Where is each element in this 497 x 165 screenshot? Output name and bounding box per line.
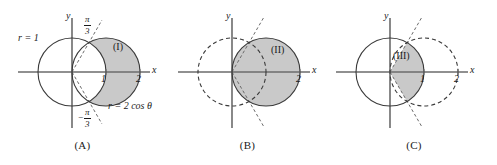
panel-b-graphic <box>165 0 330 140</box>
angle-label-minus-pi-over-3: − π 3 <box>84 108 91 129</box>
y-axis-label: y <box>66 11 70 21</box>
panel-b-caption: (B) <box>165 139 330 151</box>
panel-a: 1 2 x y r = 1 r = 2 cos θ (I) π 3 − π 3 … <box>0 0 165 165</box>
y-axis-label: y <box>226 11 230 21</box>
angle-denominator: 3 <box>84 27 91 36</box>
x-axis-label: x <box>312 65 316 75</box>
panel-a-caption: (A) <box>0 139 165 151</box>
region-label-II: (II) <box>271 45 284 55</box>
panel-c-caption: (C) <box>331 139 497 151</box>
panel-b: 2 x y (II) (B) <box>165 0 330 165</box>
x-axis-label: x <box>470 65 474 75</box>
x-axis-label: x <box>152 65 156 75</box>
y-axis-label: y <box>384 11 388 21</box>
angle-label-pi-over-3: π 3 <box>84 15 91 36</box>
tick-label-2: 2 <box>296 74 301 84</box>
polar-regions-figure: 1 2 x y r = 1 r = 2 cos θ (I) π 3 − π 3 … <box>0 0 497 165</box>
tick-label-1: 1 <box>420 74 425 84</box>
angle-numerator: π <box>84 15 91 24</box>
angle-denominator: 3 <box>84 120 91 129</box>
cos-curve-equation-label: r = 2 cos θ <box>108 101 152 111</box>
tick-label-2: 2 <box>136 74 141 84</box>
tick-label-2: 2 <box>454 74 459 84</box>
region-label-III: (III) <box>393 51 410 61</box>
angle-minus-sign: − <box>78 113 83 122</box>
panel-c: 1 2 x y (III) (C) <box>331 0 497 165</box>
region-label-I: (I) <box>113 42 123 52</box>
angle-numerator: π <box>84 108 91 117</box>
unit-circle-equation-label: r = 1 <box>18 33 39 43</box>
tick-label-1: 1 <box>101 74 106 84</box>
